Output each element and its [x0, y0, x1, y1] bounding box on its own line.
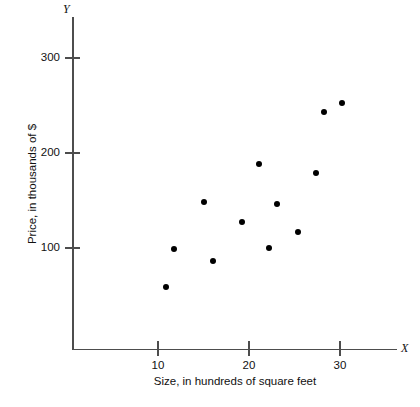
- data-point: [321, 109, 327, 115]
- y-tick-mark: [65, 152, 80, 154]
- x-axis-line: [72, 349, 397, 351]
- data-point: [163, 284, 169, 290]
- scatter-plot-figure: Y X 100200300 102030 Price, in thousands…: [0, 0, 420, 407]
- data-point: [210, 258, 216, 264]
- x-tick-label: 10: [141, 360, 175, 372]
- x-axis-title: Size, in hundreds of square feet: [110, 375, 360, 387]
- x-tick-label: 20: [232, 360, 266, 372]
- x-axis-letter: X: [401, 341, 408, 356]
- y-tick-label: 300: [26, 52, 60, 64]
- x-tick-mark: [248, 341, 250, 356]
- y-axis-line: [72, 17, 74, 350]
- data-point: [274, 201, 280, 207]
- y-axis-title: Price, in thousands of $: [26, 99, 38, 269]
- data-point: [171, 246, 177, 252]
- data-point: [266, 245, 272, 251]
- y-axis-letter: Y: [63, 2, 70, 17]
- x-tick-mark: [339, 341, 341, 356]
- data-point: [239, 219, 245, 225]
- data-point: [295, 229, 301, 235]
- x-tick-label: 30: [323, 360, 357, 372]
- y-tick-mark: [65, 57, 80, 59]
- data-point: [256, 161, 262, 167]
- data-point: [313, 170, 319, 176]
- x-tick-mark: [157, 341, 159, 356]
- data-point: [339, 100, 345, 106]
- data-point: [201, 199, 207, 205]
- y-tick-mark: [65, 247, 80, 249]
